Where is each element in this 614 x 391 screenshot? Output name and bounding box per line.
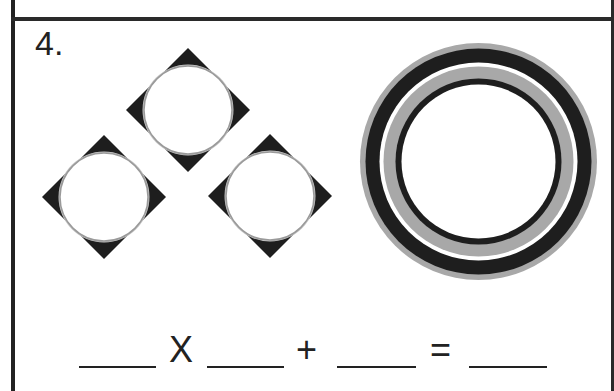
diamond-circle-icon [126,48,250,172]
answer-blank-2[interactable] [207,366,284,368]
concentric-ring-icon [360,43,597,280]
diamond-circle-icon [42,135,166,259]
answer-blank-4[interactable] [469,366,547,368]
answer-blank-1[interactable] [79,366,156,368]
equals-operator: = [430,330,451,370]
plus-operator: + [296,330,317,370]
diamond-tiles-group [42,48,332,259]
times-operator: X [169,330,193,370]
diamond-circle-icon [208,134,332,258]
answer-blank-3[interactable] [337,366,416,368]
